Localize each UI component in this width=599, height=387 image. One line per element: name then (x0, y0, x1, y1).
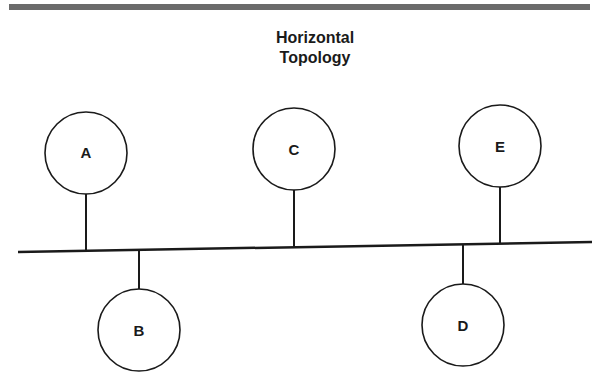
node-e-label: E (495, 138, 505, 155)
node-a-label: A (81, 144, 92, 161)
node-c-label: C (289, 141, 300, 158)
topology-diagram: A B C D E (0, 0, 599, 387)
node-e: E (459, 105, 541, 244)
bus-line (18, 242, 592, 252)
node-a: A (45, 112, 127, 251)
node-c: C (253, 108, 335, 247)
node-d-label: D (458, 317, 469, 334)
node-b-label: B (134, 322, 145, 339)
node-b: B (98, 251, 180, 371)
node-d: D (422, 245, 504, 366)
